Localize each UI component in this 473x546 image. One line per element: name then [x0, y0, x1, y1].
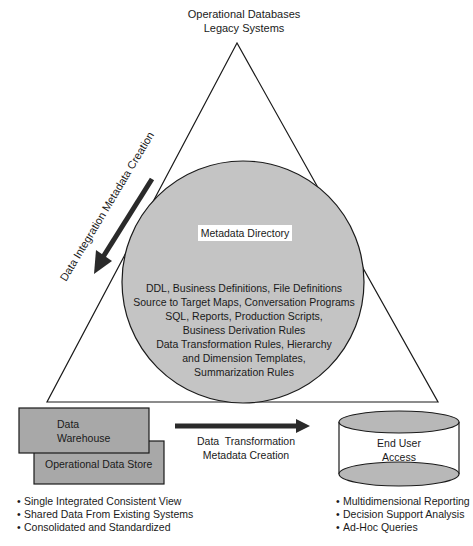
transformation-label-line-2: Metadata Creation [203, 449, 290, 461]
bullet-icon: • [336, 508, 340, 520]
metadata-line: and Dimension Templates, [182, 352, 306, 364]
bullet-icon: • [336, 521, 340, 533]
top-label-line-1: Operational Databases [188, 8, 301, 20]
metadata-line: SQL, Reports, Production Scripts, [165, 310, 323, 322]
end-user-label-line-1: End User [377, 437, 421, 449]
right-bullet: Ad-Hoc Queries [343, 521, 418, 533]
top-label-line-2: Legacy Systems [204, 22, 285, 34]
transformation-arrow [175, 419, 310, 433]
ods-label: Operational Data Store [45, 458, 153, 470]
metadata-line: Business Derivation Rules [183, 324, 306, 336]
warehouse-box [19, 408, 149, 453]
right-bullet: Decision Support Analysis [343, 508, 464, 520]
end-user-label-line-2: Access [382, 451, 416, 463]
metadata-title: Metadata Directory [201, 227, 290, 239]
bullet-icon: • [17, 508, 21, 520]
left-bullet: Single Integrated Consistent View [24, 495, 182, 507]
metadata-line: Summarization Rules [194, 366, 294, 378]
left-bullet: Shared Data From Existing Systems [24, 508, 193, 520]
bullet-icon: • [17, 495, 21, 507]
bullet-icon: • [336, 495, 340, 507]
bullet-icon: • [17, 521, 21, 533]
transformation-label-line-1: Data Transformation [197, 435, 295, 447]
metadata-diagram: Operational Databases Legacy Systems Met… [0, 0, 473, 546]
right-bullet: Multidimensional Reporting [343, 495, 470, 507]
metadata-line: Data Transformation Rules, Hierarchy [156, 338, 332, 350]
metadata-line: DDL, Business Definitions, File Definiti… [146, 282, 342, 294]
warehouse-label-line-1: Data [57, 418, 79, 430]
metadata-line: Source to Target Maps, Conversation Prog… [133, 296, 355, 308]
left-bullet: Consolidated and Standardized [24, 521, 171, 533]
left-bullets: • Single Integrated Consistent View • Sh… [17, 495, 193, 533]
right-bullets: • Multidimensional Reporting • Decision … [336, 495, 470, 533]
warehouse-label-line-2: Warehouse [57, 432, 110, 444]
arrowhead-icon [296, 419, 310, 433]
